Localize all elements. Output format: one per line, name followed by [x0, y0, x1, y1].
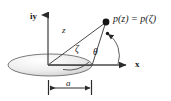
arc-end-marker	[106, 32, 109, 35]
vertical-axis-label: iy	[30, 12, 37, 21]
angle-label: θ	[93, 48, 98, 58]
theta-arc	[109, 35, 120, 65]
horizontal-axis-label: x	[135, 60, 140, 69]
point-p-marker	[103, 19, 110, 26]
radial-line-label: z	[62, 26, 66, 35]
projection-line-label: ζ	[75, 45, 79, 55]
radius-dimension-label: a	[66, 79, 71, 88]
leg-line	[92, 23, 106, 66]
point-label: p(z) = p(ζ)	[113, 14, 156, 24]
complex-plane-figure: iy x z ζ θ a p(z) = p(ζ)	[0, 0, 171, 101]
